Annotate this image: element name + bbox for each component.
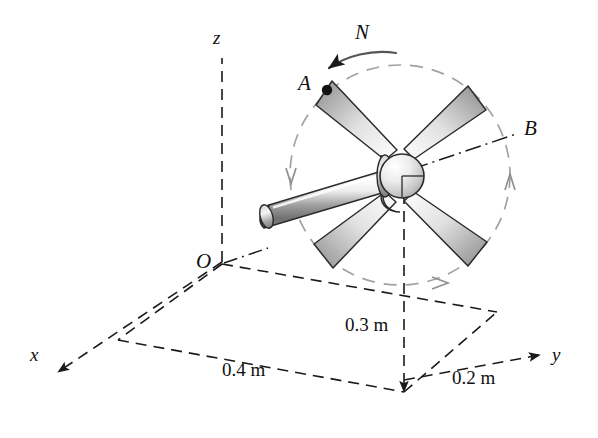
axis-o-centerline	[224, 248, 268, 263]
diagram-canvas	[0, 0, 598, 438]
point-b-label: B	[524, 118, 537, 139]
fan-rotor-diagram: z x y O A B N 0.3 m 0.4 m 0.2 m	[0, 0, 598, 438]
blade-lower-right	[404, 192, 487, 266]
dimension-height-label: 0.3 m	[345, 315, 388, 334]
z-axis-label: z	[213, 28, 220, 47]
point-a-marker	[322, 85, 332, 95]
rotation-arrowhead-bottom	[432, 277, 448, 289]
x-axis	[58, 262, 222, 372]
point-a-label: A	[298, 73, 311, 94]
origin-label: O	[196, 251, 211, 272]
rotation-direction-arrow	[329, 52, 396, 68]
y-axis-label: y	[552, 345, 560, 364]
rotation-label: N	[355, 22, 369, 43]
rotation-arrowhead-left	[286, 168, 296, 184]
base-edge-back-right	[222, 264, 497, 312]
dimension-y-depth-label: 0.2 m	[452, 368, 495, 387]
dimension-x-depth-label: 0.4 m	[222, 360, 265, 379]
base-edge-back-left	[118, 264, 222, 340]
x-axis-label: x	[30, 345, 38, 364]
